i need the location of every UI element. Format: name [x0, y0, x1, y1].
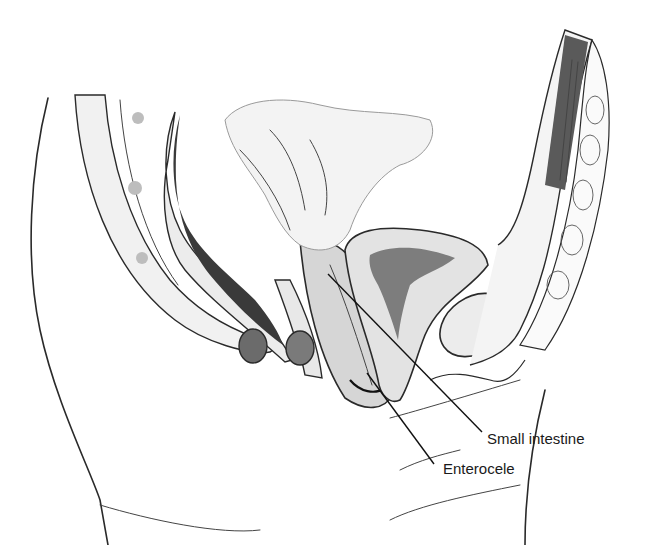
enterocele-anatomy-illustration: Small intestine Enterocele — [0, 0, 653, 545]
label-text-enterocele: Enterocele — [443, 460, 515, 477]
label-text-small-intestine: Small intestine — [487, 430, 585, 447]
small-intestine-loops — [225, 100, 433, 250]
perineum-contour — [390, 380, 520, 470]
